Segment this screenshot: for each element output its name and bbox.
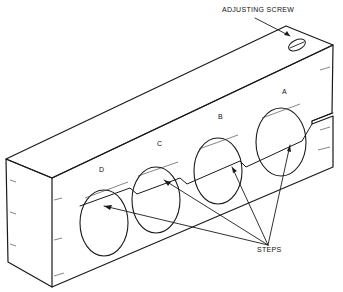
step-a-label: A [282, 88, 287, 95]
step-d-label: D [99, 166, 104, 173]
step-b-label: B [218, 113, 223, 120]
step-c-circle [132, 167, 180, 233]
steps-label: STEPS [257, 246, 281, 253]
adjusting-screw-label: ADJUSTING SCREW [222, 6, 294, 13]
step-c-label: C [157, 140, 162, 147]
diagram-canvas: ADJUSTING SCREW STEPS A B C D [0, 0, 343, 292]
block-top-face [6, 26, 333, 178]
step-a-circle [256, 108, 306, 176]
block-end-face [6, 159, 52, 287]
block-front-face [52, 45, 333, 287]
step-d-circle [80, 190, 128, 256]
block-drawing [0, 0, 343, 292]
